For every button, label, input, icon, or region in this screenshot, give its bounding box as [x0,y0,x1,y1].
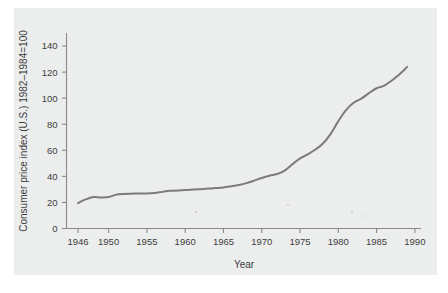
y-tick-label: 100 [42,93,58,104]
y-axis-title: Consumer price index (U.S.) 1982–1984=10… [18,30,29,232]
y-tick-label: 80 [47,119,58,130]
x-tick-label: 1950 [98,236,119,247]
x-tick-label: 1960 [175,236,196,247]
y-tick-label: 60 [47,145,58,156]
figure-container: 020406080100120140 194619501955196019651… [0,0,448,293]
y-axis-ticks [62,46,67,228]
y-tick-label: 120 [42,67,58,78]
paper-speck [287,204,289,206]
x-tick-label: 1965 [213,236,234,247]
y-tick-label: 0 [52,223,57,234]
paper-speck [195,211,197,213]
x-tick-label: 1980 [328,236,349,247]
x-axis-tick-labels: 1946195019551960196519701975198019851990 [67,236,425,247]
y-tick-label: 40 [47,171,58,182]
x-axis-title: Year [234,259,255,270]
x-tick-label: 1970 [251,236,272,247]
paper-speck [364,215,366,217]
y-tick-label: 20 [47,197,58,208]
x-tick-label: 1955 [136,236,157,247]
x-tick-label: 1985 [366,236,387,247]
y-axis-tick-labels: 020406080100120140 [42,40,58,233]
x-tick-label: 1975 [289,236,310,247]
y-tick-label: 140 [42,40,58,51]
line-chart: 020406080100120140 194619501955196019651… [0,0,448,293]
x-tick-label: 1946 [67,236,88,247]
x-axis-ticks [78,229,415,234]
cpi-series-line [78,67,407,203]
paper-speck [351,211,353,213]
x-tick-label: 1990 [404,236,425,247]
